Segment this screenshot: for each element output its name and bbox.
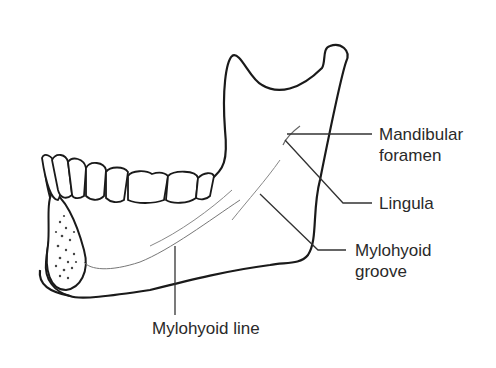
- label-lingula: Lingula: [379, 193, 434, 214]
- leader-lingula: [285, 140, 372, 203]
- label-mylohyoid-groove: Mylohyoid groove: [355, 240, 432, 282]
- mandible-drawing: [0, 0, 496, 368]
- symphysis-section: [47, 192, 86, 290]
- label-mylohyoid-line: Mylohyoid line: [152, 318, 260, 339]
- leader-mylohyoid-groove: [260, 194, 346, 250]
- label-mandibular-foramen: Mandibular foramen: [379, 124, 463, 166]
- teeth: [42, 155, 214, 203]
